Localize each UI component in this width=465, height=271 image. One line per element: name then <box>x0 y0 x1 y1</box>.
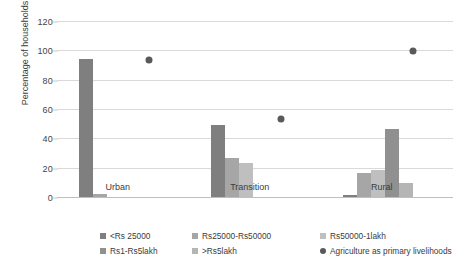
legend-item[interactable]: Agriculture as primary livelihoods <box>320 246 452 256</box>
legend-circle-icon <box>320 248 326 254</box>
bar-chart: Percentage of households 020406080100120… <box>0 0 465 271</box>
bar <box>399 183 413 198</box>
y-axis-ticks: 020406080100120 <box>13 22 53 198</box>
legend-label: Rs25000-Rs50000 <box>202 231 271 241</box>
bar-group <box>321 22 453 198</box>
y-axis-tick-label: 40 <box>19 134 53 144</box>
scatter-point <box>146 57 153 64</box>
bar <box>357 173 371 198</box>
legend-item[interactable]: Rs25000-Rs50000 <box>192 231 320 241</box>
y-axis-tick-label: 80 <box>19 76 53 86</box>
bar <box>211 125 225 198</box>
legend-swatch-icon <box>192 233 198 239</box>
chart-legend: <Rs 25000Rs25000-Rs50000Rs50000-1lakh Rs… <box>100 228 452 258</box>
legend-row-2: Rs1-Rs5lakh>Rs5lakhAgriculture as primar… <box>100 243 452 258</box>
legend-swatch-icon <box>320 233 326 239</box>
x-axis-label: Transition <box>230 182 269 192</box>
bar <box>79 59 93 198</box>
y-axis-tick-label: 0 <box>19 193 53 203</box>
scatter-point <box>278 115 285 122</box>
legend-item[interactable]: <Rs 25000 <box>100 231 192 241</box>
legend-label: >Rs5lakh <box>202 246 237 256</box>
x-axis-label: Urban <box>105 182 130 192</box>
y-axis-tick-label: 60 <box>19 105 53 115</box>
bars <box>79 22 149 198</box>
y-axis-tick-label: 120 <box>19 17 53 27</box>
legend-item[interactable]: Rs1-Rs5lakh <box>100 246 192 256</box>
x-axis-line <box>57 197 453 198</box>
legend-item[interactable]: Rs50000-1lakh <box>320 231 386 241</box>
bars <box>211 22 281 198</box>
bars <box>343 22 413 198</box>
legend-item[interactable]: >Rs5lakh <box>192 246 320 256</box>
legend-swatch-icon <box>192 248 198 254</box>
legend-row-1: <Rs 25000Rs25000-Rs50000Rs50000-1lakh <box>100 228 452 243</box>
bar <box>225 158 239 198</box>
scatter-point <box>410 48 417 55</box>
bar <box>239 163 253 198</box>
legend-label: Agriculture as primary livelihoods <box>330 246 452 256</box>
legend-label: Rs1-Rs5lakh <box>110 246 158 256</box>
y-axis-tick-label: 100 <box>19 46 53 56</box>
y-axis-tick-label: 20 <box>19 164 53 174</box>
bar-group <box>189 22 321 198</box>
plot-area <box>57 22 453 198</box>
legend-label: Rs50000-1lakh <box>330 231 386 241</box>
x-axis-label: Rural <box>371 182 393 192</box>
legend-label: <Rs 25000 <box>110 231 150 241</box>
bar-group <box>57 22 189 198</box>
legend-swatch-icon <box>100 233 106 239</box>
legend-swatch-icon <box>100 248 106 254</box>
